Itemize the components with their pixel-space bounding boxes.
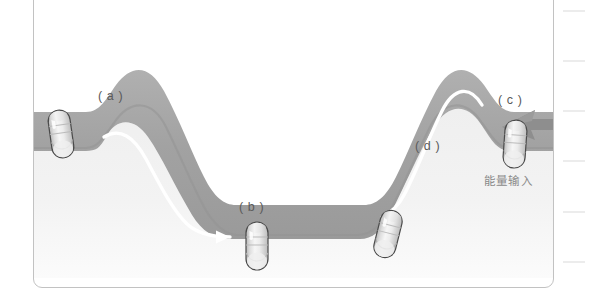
diagram-page: ( a ) ( b ) ( c ) ( d ) 能量输入: [0, 0, 595, 299]
label-state-a: ( a ): [98, 89, 123, 103]
margin-rule: [554, 0, 595, 299]
energy-landscape-svg: [34, 0, 553, 287]
capsule-c: [502, 119, 527, 168]
margin-tick: [563, 60, 585, 62]
label-state-d: ( d ): [415, 139, 440, 153]
margin-tick: [563, 10, 585, 12]
margin-tick: [563, 160, 585, 162]
label-state-c: ( c ): [498, 93, 523, 107]
energy-input-label: 能量输入: [484, 172, 533, 188]
label-state-b: ( b ): [239, 200, 264, 214]
capsule-b: [246, 222, 268, 270]
figure-panel: ( a ) ( b ) ( c ) ( d ) 能量输入: [33, 0, 554, 288]
margin-tick: [563, 110, 585, 112]
margin-tick: [563, 211, 585, 213]
margin-tick: [563, 261, 585, 263]
